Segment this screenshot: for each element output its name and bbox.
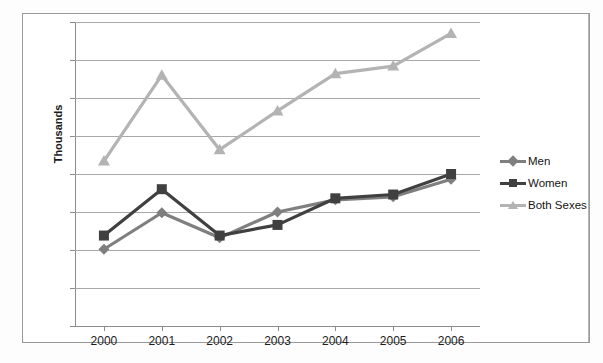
plot-area: 0510152025303540 20002001200220032004200…: [75, 22, 480, 326]
series-men: [98, 174, 456, 255]
x-tick-label-2000: 2000: [74, 334, 134, 348]
y-axis-title: Thousands: [52, 74, 64, 194]
x-tick-mark-2006: [451, 326, 452, 331]
legend-item-women[interactable]: Women: [500, 172, 590, 194]
x-tick-label-2005: 2005: [363, 334, 423, 348]
data-point-women-2002: [215, 231, 225, 241]
series-line-both-sexes: [104, 33, 451, 161]
legend-marker-diamond-icon: [507, 155, 518, 166]
legend-swatch-square-icon: [500, 176, 526, 190]
x-tick-mark-2001: [162, 326, 163, 331]
y-tick-mark-0: [70, 326, 75, 327]
x-tick-mark-2003: [278, 326, 279, 331]
legend-marker-square-icon: [509, 179, 517, 187]
data-point-women-2001: [157, 184, 167, 194]
x-tick-label-2002: 2002: [190, 334, 250, 348]
data-point-women-2000: [99, 231, 109, 241]
series-both-sexes: [98, 27, 457, 165]
x-tick-mark-2002: [220, 326, 221, 331]
series-women: [99, 169, 456, 241]
legend-item-both-sexes[interactable]: Both Sexes: [500, 194, 590, 216]
legend-item-men[interactable]: Men: [500, 150, 590, 172]
data-point-women-2005: [388, 190, 398, 200]
x-tick-label-2003: 2003: [248, 334, 308, 348]
x-tick-label-2006: 2006: [421, 334, 481, 348]
data-point-women-2004: [330, 193, 340, 203]
data-point-both-sexes-2001: [156, 69, 168, 80]
legend-label: Men: [528, 155, 550, 167]
x-tick-mark-2004: [335, 326, 336, 331]
legend-marker-triangle-icon: [508, 201, 518, 209]
chart-legend: MenWomenBoth Sexes: [500, 150, 590, 216]
x-tick-label-2001: 2001: [132, 334, 192, 348]
data-point-women-2006: [446, 169, 456, 179]
x-tick-mark-2000: [104, 326, 105, 331]
x-tick-mark-2005: [393, 326, 394, 331]
data-point-both-sexes-2006: [445, 27, 457, 38]
legend-label: Both Sexes: [528, 199, 587, 211]
chart-screenshot: Thousands 0510152025303540 2000200120022…: [0, 0, 603, 363]
data-point-women-2003: [273, 220, 283, 230]
series-lines-group: [75, 22, 480, 326]
x-tick-label-2004: 2004: [305, 334, 365, 348]
legend-swatch-triangle-icon: [500, 198, 526, 212]
legend-swatch-diamond-icon: [500, 154, 526, 168]
legend-label: Women: [528, 177, 567, 189]
data-point-men-2003: [272, 207, 283, 218]
